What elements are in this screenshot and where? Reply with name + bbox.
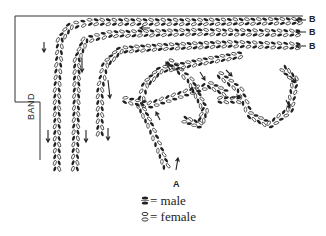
direction-arrows: [42, 18, 306, 170]
solid-oval-pair-icon: [140, 194, 150, 208]
exit-label-b2: B: [309, 27, 316, 37]
entry-label-a: A: [173, 179, 180, 189]
exit-label-b1: B: [309, 14, 316, 24]
legend-female: = female: [150, 209, 196, 225]
hollow-oval-pair-icon: [140, 210, 150, 224]
band-label: BAND: [26, 93, 36, 120]
exit-label-b3: B: [309, 41, 316, 51]
dancer-marks: [53, 17, 303, 172]
legend-male: = male: [150, 193, 186, 209]
